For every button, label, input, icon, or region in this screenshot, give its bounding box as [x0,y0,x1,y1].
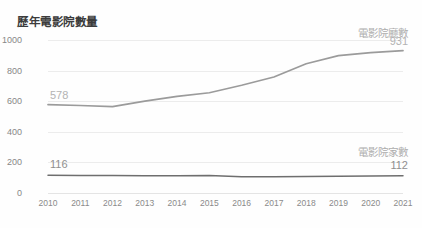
series-start-value-cinemas: 116 [50,158,68,170]
x-tick-label-2010: 2010 [39,198,58,208]
y-tick-label-0: 0 [0,188,22,198]
x-tick-label-2015: 2015 [200,198,219,208]
y-tick-label-200: 200 [0,157,22,167]
y-tick-label-800: 800 [0,66,22,76]
gridline-0 [48,193,403,194]
x-tick-label-2020: 2020 [361,198,380,208]
series-start-value-screens: 578 [50,89,68,101]
x-tick-label-2012: 2012 [103,198,122,208]
x-tick-label-2019: 2019 [329,198,348,208]
chart-title: 歷年電影院數量 [17,13,98,29]
y-tick-label-400: 400 [0,127,22,137]
x-tick-label-2013: 2013 [135,198,154,208]
x-tick-label-2014: 2014 [168,198,187,208]
x-tick-label-2016: 2016 [232,198,251,208]
y-tick-label-600: 600 [0,96,22,106]
plot-area: 10008006004002000 2010201120122013201420… [48,40,403,193]
series-end-value-cinemas: 112 [390,159,408,171]
x-tick-label-2021: 2021 [394,198,413,208]
y-tick-label-1000: 1000 [0,35,22,45]
chart-container: 歷年電影院數量 10008006004002000 20102011201220… [0,0,422,228]
x-tick-label-2011: 2011 [71,198,89,208]
series-line-cinemas [48,175,403,177]
x-tick-label-2017: 2017 [264,198,283,208]
series-end-value-screens: 931 [390,35,408,47]
series-lines [48,40,403,193]
x-tick-label-2018: 2018 [297,198,316,208]
series-label-cinemas: 電影院家數 [358,144,408,159]
series-line-screens [48,51,403,107]
